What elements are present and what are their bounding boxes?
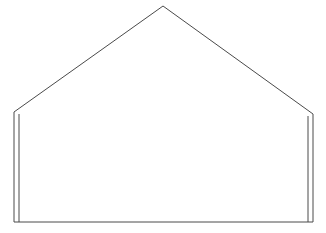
gable-drawing-canvas — [0, 0, 326, 233]
gable-outline-drawing — [0, 0, 326, 233]
roof-and-walls-outline — [14, 6, 313, 222]
